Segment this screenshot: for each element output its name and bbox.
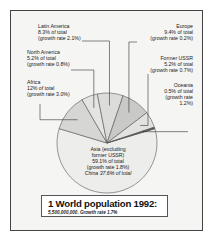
label-latin-america: Latin America 8.3% of total (growth rate…	[38, 23, 81, 41]
label-africa-growth: (growth rate 3.0%)	[27, 91, 70, 97]
label-oceania-growth-cont: 1.2%)	[164, 100, 193, 106]
label-asia: Asia (excluding former USSR) 59.1% of to…	[78, 146, 138, 176]
label-latin-america-growth: (growth rate 2.1%)	[38, 35, 81, 41]
chart-title: 1 World population 1992:	[48, 198, 157, 209]
label-europe-growth: (growth rate 0.2%)	[150, 35, 193, 41]
chart-subtitle: 5,500,000,000. Growth rate 1.7%	[48, 210, 117, 215]
label-north-america-growth: (growth rate 0.8%)	[27, 61, 70, 67]
label-former-ussr: Former USSR 5.2% of total (growth rate 0…	[150, 55, 193, 73]
label-oceania: Oceania 0.5% of total (growth rate 1.2%)	[164, 82, 193, 106]
label-former-ussr-growth: (growth rate 0.7%)	[150, 67, 193, 73]
label-africa: Africa 12% of total (growth rate 3.0%)	[27, 79, 70, 97]
caption-box: 1 World population 1992: 5,500,000,000. …	[41, 195, 168, 217]
label-europe: Europe 9.4% of total (growth rate 0.2%)	[150, 23, 193, 41]
label-asia-china-note: China 37.6% of total	[78, 170, 138, 176]
label-north-america: North America 5.2% of total (growth rate…	[27, 49, 70, 67]
